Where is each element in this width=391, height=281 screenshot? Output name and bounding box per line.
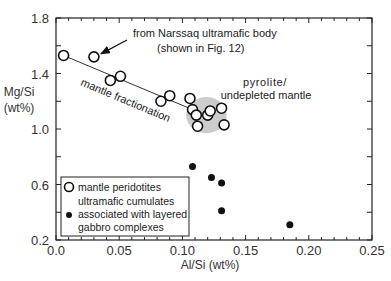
x-tick-label: 0.15 <box>233 243 258 258</box>
scatter-chart: 0.00.050.100.150.200.250.20.61.01.41.8Al… <box>0 0 391 281</box>
mantle-peridotite-point <box>191 110 201 120</box>
mantle-peridotite-point <box>105 75 115 85</box>
y-axis-title: Mg/Si <box>4 85 35 99</box>
y-tick-label: 0.2 <box>31 233 49 248</box>
legend-layer: mantle peridotitesultramafic cumulatesas… <box>61 177 189 236</box>
narssaq-arrow <box>101 40 127 54</box>
cumulate-point <box>189 163 196 170</box>
y-tick-label: 1.8 <box>31 11 49 26</box>
narssaq-annotation-text: from Narssaq ultramafic body <box>133 27 277 39</box>
x-tick-label: 0.10 <box>170 243 195 258</box>
legend-label: gabbro complexes <box>78 221 164 233</box>
mantle-peridotite-point <box>89 52 99 62</box>
y-axis-title: (wt%) <box>4 101 35 115</box>
pyrolite-label: pyrolite/ <box>243 76 287 88</box>
y-tick-label: 1.4 <box>31 67 49 82</box>
cumulate-point <box>208 174 215 181</box>
x-tick-label: 0.25 <box>359 243 384 258</box>
legend-label: mantle peridotites <box>78 181 161 193</box>
mantle-peridotite-point <box>115 71 125 81</box>
mantle-peridotite-point <box>193 121 203 131</box>
mantle-peridotite-point <box>217 103 227 113</box>
legend-label: associated with layered <box>78 208 187 220</box>
x-tick-label: 0.05 <box>107 243 132 258</box>
x-tick-label: 0.0 <box>47 243 65 258</box>
cumulate-point <box>286 221 293 228</box>
trend-line-layer: mantle fractionation <box>64 55 193 124</box>
cumulate-point <box>218 207 225 214</box>
y-tick-label: 0.6 <box>31 178 49 193</box>
mantle-peridotite-point <box>219 120 229 130</box>
x-axis-title: Al/Si (wt%) <box>181 258 240 272</box>
mantle-peridotite-point <box>59 50 69 60</box>
mantle-peridotite-point <box>205 106 215 116</box>
mantle-peridotite-point <box>165 91 175 101</box>
cumulate-point <box>218 180 225 187</box>
annotation-layer: pyrolite/undepleted mantlefrom Narssaq u… <box>101 27 311 101</box>
y-tick-label: 1.0 <box>31 122 49 137</box>
legend-open-circle-icon <box>65 183 74 192</box>
pyrolite-label: undepleted mantle <box>221 89 312 101</box>
narssaq-annotation-text: (shown in Fig. 12) <box>157 42 244 54</box>
legend-filled-circle-icon <box>66 212 72 218</box>
x-tick-label: 0.20 <box>296 243 321 258</box>
mantle-peridotite-point <box>185 93 195 103</box>
legend-label: ultramafic cumulates <box>78 195 174 207</box>
